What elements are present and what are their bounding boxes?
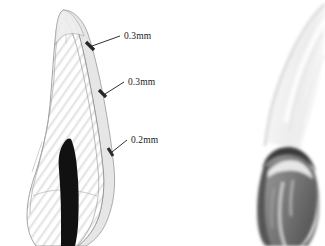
callout-1-label: 0.3mm — [124, 31, 152, 41]
dental-figure: 0.3mm 0.3mm 0.2mm — [0, 0, 325, 246]
callout-3-label: 0.2mm — [131, 135, 159, 145]
callout-2-label: 0.3mm — [128, 77, 156, 87]
